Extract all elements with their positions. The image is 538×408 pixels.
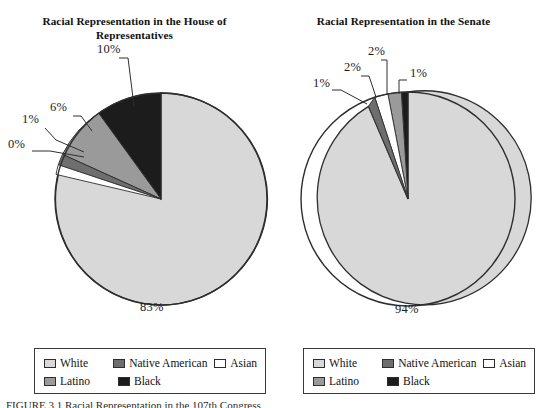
pie-label-house-3: 0%: [8, 137, 25, 152]
pie-label-senate-1: 2%: [344, 60, 361, 75]
legend-row-1: White Native American Asian: [44, 355, 257, 371]
legend-label-asian: Asian: [499, 357, 526, 369]
pie-chart-house: [0, 0, 269, 330]
legend-item-latino: Latino: [44, 375, 118, 387]
legend-item-white: White: [313, 357, 382, 369]
legend-label-white: White: [329, 357, 357, 369]
pie-label-senate-0: 2%: [368, 44, 385, 59]
legend-label-asian: Asian: [230, 357, 257, 369]
legend-row-2: Latino Black: [44, 373, 257, 389]
legend-swatch-black-icon: [118, 377, 130, 386]
chart-panel-senate: Racial Representation in the Senate: [269, 0, 538, 408]
legend-item-black: Black: [387, 375, 495, 387]
legend-item-native-american: Native American: [382, 357, 483, 369]
legend-item-white: White: [44, 357, 113, 369]
legend-item-asian: Asian: [214, 357, 257, 369]
legend-swatch-latino-icon: [44, 377, 56, 386]
pie-slice-white-senate: [317, 91, 531, 305]
legend-swatch-native-american-icon: [113, 359, 125, 368]
legend-row-1: White Native American Asian: [313, 355, 526, 371]
legend-row-2: Latino Black: [313, 373, 526, 389]
legend-label-native-american: Native American: [398, 357, 476, 369]
legend-senate: White Native American Asian Latino Black: [303, 348, 535, 394]
legend-item-latino: Latino: [313, 375, 387, 387]
legend-label-native-american: Native American: [129, 357, 207, 369]
chart-panel-house: Racial Representation in the House of Re…: [0, 0, 269, 408]
pie-label-house-1: 6%: [50, 100, 67, 115]
legend-swatch-white-icon: [44, 359, 56, 368]
legend-swatch-black-icon: [387, 377, 399, 386]
pie-area-senate: [269, 0, 538, 330]
figure-page: Racial Representation in the House of Re…: [0, 0, 538, 408]
legend-swatch-native-american-icon: [382, 359, 394, 368]
pie-label-house-0: 10%: [97, 42, 121, 57]
leader-line-2pct-a-senate: [381, 60, 387, 95]
legend-item-native-american: Native American: [113, 357, 214, 369]
legend-label-black: Black: [403, 375, 430, 387]
figure-caption: FIGURE 3.1 Racial Representation in the …: [6, 399, 526, 408]
pie-area-house: [0, 0, 269, 330]
pie-label-house-4: 83%: [140, 300, 164, 315]
legend-house: White Native American Asian Latino Black: [34, 348, 266, 394]
leader-line-2pct-b-senate: [361, 76, 376, 97]
legend-label-latino: Latino: [60, 375, 90, 387]
legend-swatch-white-icon: [313, 359, 325, 368]
pie-label-senate-4: 94%: [395, 302, 419, 317]
legend-swatch-asian-icon: [483, 359, 495, 368]
pie-label-senate-3: 1%: [313, 76, 330, 91]
pie-label-house-2: 1%: [22, 112, 39, 127]
legend-item-asian: Asian: [483, 357, 526, 369]
legend-swatch-asian-icon: [214, 359, 226, 368]
legend-label-white: White: [60, 357, 88, 369]
pie-chart-senate: [269, 0, 538, 330]
legend-label-black: Black: [134, 375, 161, 387]
pie-label-senate-2: 1%: [410, 66, 427, 81]
legend-swatch-latino-icon: [313, 377, 325, 386]
legend-label-latino: Latino: [329, 375, 359, 387]
legend-item-black: Black: [118, 375, 226, 387]
